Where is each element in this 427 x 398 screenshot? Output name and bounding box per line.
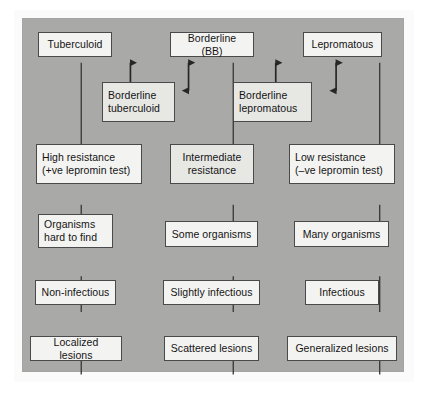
node-intermediate-resistance[interactable]: Intermediate resistance	[170, 144, 254, 184]
node-some-organisms[interactable]: Some organisms	[165, 221, 258, 247]
node-scattered-lesions[interactable]: Scattered lesions	[164, 336, 259, 361]
node-label: Intermediate resistance	[183, 151, 242, 176]
node-lepromatous[interactable]: Lepromatous	[303, 32, 382, 57]
node-label: Some organisms	[172, 228, 251, 241]
node-label: Lepromatous	[312, 38, 374, 51]
node-borderline-lepromatous[interactable]: Borderline lepromatous	[233, 82, 312, 122]
node-label: Scattered lesions	[171, 342, 252, 355]
node-label: Borderline lepromatous	[239, 89, 297, 114]
node-label: High resistance (+ve lepromin test)	[42, 151, 130, 176]
node-label: Borderline (BB)	[176, 32, 248, 57]
node-slightly-infectious[interactable]: Slightly infectious	[163, 280, 260, 305]
node-label: Low resistance (–ve lepromin test)	[295, 151, 383, 176]
node-organisms-hard-to-find[interactable]: Organisms hard to find	[38, 214, 113, 248]
node-low-resistance[interactable]: Low resistance (–ve lepromin test)	[289, 144, 395, 184]
node-borderline-tuberculoid[interactable]: Borderline tuberculoid	[102, 82, 175, 122]
node-generalized-lesions[interactable]: Generalized lesions	[287, 336, 397, 361]
node-non-infectious[interactable]: Non-infectious	[35, 280, 116, 305]
figure-root: Tuberculoid Borderline (BB) Lepromatous …	[0, 0, 427, 398]
node-tuberculoid[interactable]: Tuberculoid	[38, 32, 112, 57]
node-label: Tuberculoid	[47, 38, 102, 51]
node-label: Infectious	[319, 286, 364, 299]
node-infectious[interactable]: Infectious	[305, 280, 379, 305]
node-label: Organisms hard to find	[44, 218, 97, 243]
node-many-organisms[interactable]: Many organisms	[294, 221, 389, 247]
node-label: Borderline tuberculoid	[108, 89, 160, 114]
node-label: Non-infectious	[42, 286, 110, 299]
node-label: Localized lesions	[36, 336, 116, 361]
node-borderline-bb[interactable]: Borderline (BB)	[170, 32, 254, 57]
node-label: Slightly infectious	[170, 286, 252, 299]
node-high-resistance[interactable]: High resistance (+ve lepromin test)	[36, 144, 142, 184]
node-label: Generalized lesions	[295, 342, 388, 355]
node-label: Many organisms	[303, 228, 381, 241]
diagram-panel: Tuberculoid Borderline (BB) Lepromatous …	[22, 18, 404, 372]
node-localized-lesions[interactable]: Localized lesions	[30, 336, 122, 361]
